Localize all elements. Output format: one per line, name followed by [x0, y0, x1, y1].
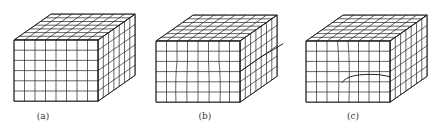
- panel-c-label: (c): [333, 111, 373, 121]
- figure-caption: [178, 131, 264, 137]
- cube-c: [306, 15, 427, 102]
- cube-a: [14, 14, 135, 101]
- cube-b: [156, 15, 283, 102]
- panel-a-label: (a): [23, 111, 63, 121]
- panel-b-label: (b): [185, 111, 225, 121]
